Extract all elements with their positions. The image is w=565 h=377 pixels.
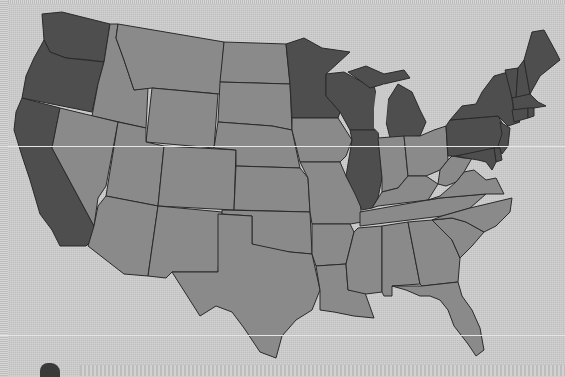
state-wy[interactable] — [146, 88, 218, 148]
state-ct[interactable] — [512, 108, 528, 122]
state-mt[interactable] — [116, 24, 224, 94]
state-ia[interactable] — [292, 118, 352, 162]
state-nd[interactable] — [220, 42, 290, 84]
scan-artifact-line — [0, 335, 565, 336]
state-co[interactable] — [158, 146, 236, 210]
state-ks[interactable] — [234, 166, 310, 212]
lake-michigan — [374, 84, 388, 134]
state-az[interactable] — [88, 196, 158, 276]
alaska-inset-fragment — [40, 363, 60, 377]
state-me[interactable] — [524, 30, 560, 94]
state-nm[interactable] — [148, 206, 222, 278]
scan-border-bottom — [80, 365, 565, 376]
state-mi[interactable] — [386, 84, 426, 138]
state-ri[interactable] — [528, 108, 534, 118]
scan-artifact-line — [0, 146, 565, 147]
state-fl[interactable] — [392, 282, 484, 356]
